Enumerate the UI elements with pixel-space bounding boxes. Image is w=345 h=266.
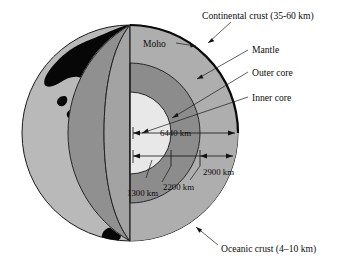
dimension-2200-label: 2200 km [163,182,194,192]
label-continental-crust: Continental crust (35-60 km) [202,10,314,22]
earth-structure-figure: 6440 km 2900 km 2200 km 1300 km [0,0,345,266]
dimension-2900-label: 2900 km [203,167,234,177]
leader-oceanic-crust-arrow [196,227,202,233]
label-moho: Moho [143,38,166,49]
earth-cutaway-diagram: 6440 km 2900 km 2200 km 1300 km [0,0,345,266]
dimension-6440-label: 6440 km [160,128,191,138]
leader-continental-crust-arrow [208,38,214,43]
dimension-1300-label: 1300 km [127,188,158,198]
label-outer-core: Outer core [252,67,293,78]
label-inner-core: Inner core [252,92,291,103]
label-mantle: Mantle [252,44,279,55]
label-oceanic-crust: Oceanic crust (4–10 km) [221,243,316,255]
